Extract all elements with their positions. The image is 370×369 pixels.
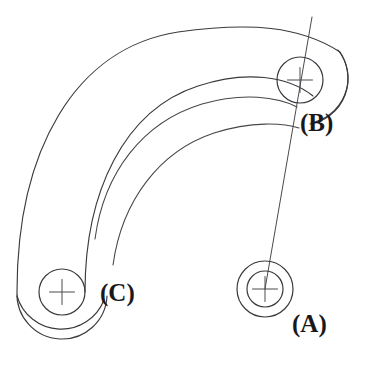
pivot-c xyxy=(39,269,85,315)
label-a: (A) xyxy=(292,310,327,338)
pivot-b xyxy=(277,57,323,103)
pivot-a xyxy=(237,261,293,317)
linkage-diagram-svg: (A) (B) (C) xyxy=(0,0,370,369)
c-end-cap-arc xyxy=(17,296,104,329)
technical-drawing-canvas: (A) (B) (C) xyxy=(0,0,370,369)
slot-inner-arc xyxy=(113,124,299,265)
label-b: (B) xyxy=(300,109,333,137)
inner-boundary-arc xyxy=(85,77,313,292)
curved-slot xyxy=(95,97,299,265)
label-c: (C) xyxy=(100,279,135,307)
